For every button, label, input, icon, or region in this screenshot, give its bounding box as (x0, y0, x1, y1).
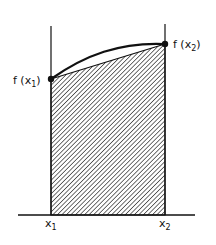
label-f-x1: f (x1) (13, 74, 41, 89)
label-x2: x2 (159, 217, 171, 232)
point-f-x2 (162, 41, 168, 47)
point-f-x1 (48, 76, 54, 82)
shaded-trapezoid (51, 44, 165, 215)
label-x1: x1 (45, 217, 57, 232)
label-f-x2: f (x2) (173, 38, 201, 53)
trapezoid-diagram: f (x1) f (x2) x1 x2 (0, 0, 216, 245)
